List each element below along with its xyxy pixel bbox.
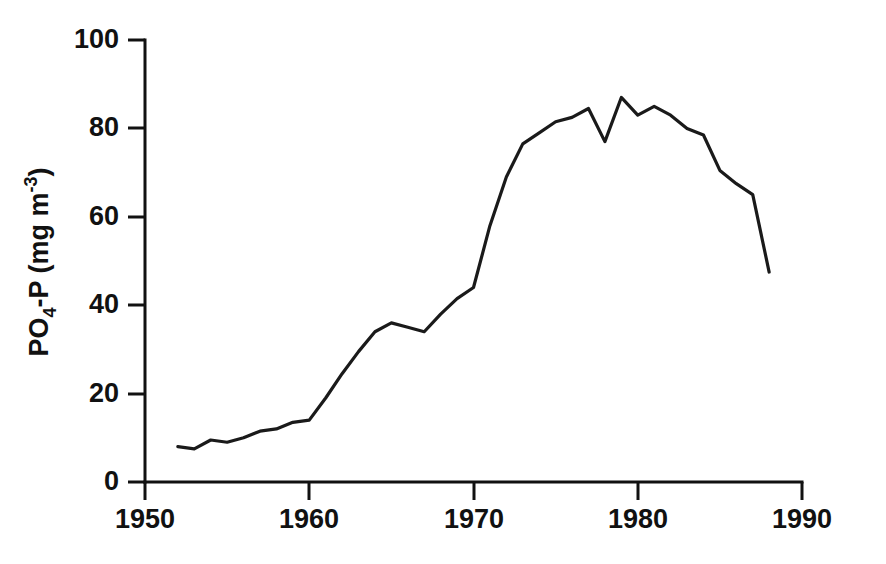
y-axis-title-main3: ) <box>24 167 54 176</box>
po4p-line-chart: PO4-P (mg m-3) 100 80 60 40 20 0 <box>0 0 886 564</box>
x-tick-label-1980: 1980 <box>608 504 668 534</box>
x-tick-label-1950: 1950 <box>115 504 175 534</box>
y-axis-title-main2: -P (mg m <box>24 192 54 307</box>
y-tick-label-0: 0 <box>104 466 119 496</box>
x-tick-label-1970: 1970 <box>444 504 504 534</box>
y-tick-label-40: 40 <box>89 289 119 319</box>
y-axis-title-sup1: -3 <box>21 176 41 192</box>
y-tick-label-100: 100 <box>74 24 119 54</box>
y-tick-label-60: 60 <box>89 201 119 231</box>
x-tick-label-1960: 1960 <box>279 504 339 534</box>
chart-figure: PO4-P (mg m-3) 100 80 60 40 20 0 <box>0 0 886 564</box>
y-axis-title-sub1: 4 <box>40 308 60 318</box>
x-tick-label-1990: 1990 <box>772 504 832 534</box>
y-tick-label-20: 20 <box>89 378 119 408</box>
y-tick-label-80: 80 <box>89 112 119 142</box>
chart-background <box>0 0 886 564</box>
y-axis-title-main1: PO <box>24 318 54 357</box>
